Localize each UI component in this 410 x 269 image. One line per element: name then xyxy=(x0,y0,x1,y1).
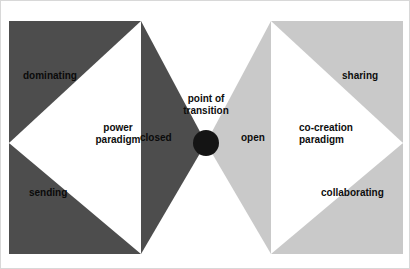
label-point-of-transition-line2: transition xyxy=(183,105,229,117)
point-of-transition-node xyxy=(193,130,219,156)
label-power-paradigm-line1: power xyxy=(103,122,132,134)
label-collaborating: collaborating xyxy=(321,187,384,199)
label-open: open xyxy=(241,132,265,144)
label-sharing: sharing xyxy=(342,70,378,82)
label-sending: sending xyxy=(29,187,67,199)
label-co-creation-paradigm-line1: co-creation xyxy=(299,122,353,134)
label-dominating: dominating xyxy=(23,70,77,82)
label-point-of-transition-line1: point of xyxy=(188,93,225,105)
label-closed: closed xyxy=(140,132,172,144)
label-power-paradigm-line2: paradigm xyxy=(95,134,140,146)
diagram-canvas: .fill-left { fill: #4d4d4d; } .fill-righ… xyxy=(1,1,410,269)
bowtie-transition-diagram: .fill-left { fill: #4d4d4d; } .fill-righ… xyxy=(0,0,410,269)
label-co-creation-paradigm-line2: paradigm xyxy=(299,134,344,146)
